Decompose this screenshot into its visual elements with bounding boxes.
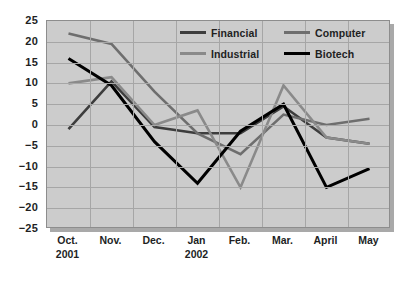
grid-line-horizontal [47,104,389,105]
legend-label-industrial: Industrial [211,48,259,60]
y-axis-tick-label: −10 [19,160,38,172]
x-axis-tick-label: April [314,233,338,247]
grid-line-horizontal [47,208,389,209]
x-axis-tick-label: Oct.2001 [56,233,79,261]
y-axis-tick-label: −5 [25,139,38,151]
y-axis-tick-label: 10 [25,76,38,88]
x-axis-tick-label: Dec. [142,233,164,247]
x-axis-tick-label-primary: Mar. [272,234,293,246]
legend-entry-financial[interactable]: Financial [180,27,284,39]
y-axis-tick-label: −20 [19,201,38,213]
legend-swatch-biotech [284,52,310,55]
x-axis-tick-label-primary: Feb. [229,234,251,246]
grid-line-horizontal [47,83,389,84]
line-chart: 2520151050−5−10−15−20−25 Financial Compu… [0,0,398,288]
x-axis-tick-label-primary: April [314,234,338,246]
grid-line-vertical [90,21,91,227]
grid-line-horizontal [47,167,389,168]
x-axis-tick-label-secondary: 2001 [56,247,79,261]
y-axis: 2520151050−5−10−15−20−25 [0,20,42,228]
y-axis-tick-label: 5 [32,97,38,109]
y-axis-tick-label: 20 [25,35,38,47]
legend-swatch-industrial [180,52,206,55]
legend-entry-computer[interactable]: Computer [284,27,380,39]
y-axis-tick-label: 25 [25,14,38,26]
x-axis: Oct.2001Nov.Dec.Jan2002Feb.Mar.AprilMay [46,233,390,283]
x-axis-tick-label: Mar. [272,233,293,247]
legend-entry-industrial[interactable]: Industrial [180,48,284,60]
grid-line-vertical [133,21,134,227]
legend-swatch-computer [284,31,310,34]
x-axis-tick-label: May [358,233,378,247]
grid-line-horizontal [47,125,389,126]
x-axis-tick-label: Nov. [100,233,122,247]
legend-label-financial: Financial [211,27,257,39]
y-axis-tick-label: 15 [25,56,38,68]
y-axis-tick-label: 0 [32,118,38,130]
legend-label-computer: Computer [315,27,365,39]
legend-entry-biotech[interactable]: Biotech [284,48,380,60]
x-axis-tick-label: Feb. [229,233,251,247]
legend: Financial Computer Industrial Biotech [180,22,380,64]
x-axis-tick-label: Jan2002 [185,233,208,261]
y-axis-tick-label: −15 [19,180,38,192]
x-axis-tick-label-primary: Nov. [100,234,122,246]
x-axis-tick-label-primary: Oct. [57,234,77,246]
grid-line-horizontal [47,146,389,147]
legend-swatch-financial [180,31,206,34]
legend-label-biotech: Biotech [315,48,354,60]
x-axis-tick-label-primary: May [358,234,378,246]
x-axis-tick-label-primary: Jan [187,234,205,246]
x-axis-tick-label-secondary: 2002 [185,247,208,261]
y-axis-tick-label: −25 [19,222,38,234]
grid-line-vertical [176,21,177,227]
x-axis-tick-label-primary: Dec. [142,234,164,246]
grid-line-horizontal [47,187,389,188]
